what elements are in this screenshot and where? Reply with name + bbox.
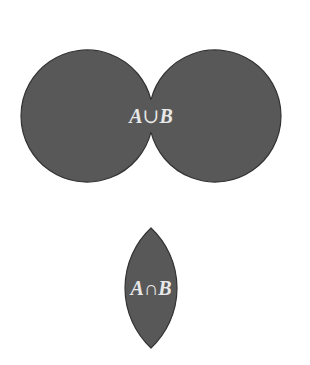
union-label-b: B xyxy=(158,105,172,127)
union-label-a: A xyxy=(127,105,142,127)
intersection-shape: A∩B xyxy=(125,228,177,348)
intersection-label: A∩B xyxy=(128,277,171,299)
union-operator: ∪ xyxy=(143,105,160,127)
intersection-label-b: B xyxy=(157,277,171,299)
venn-diagram-svg: A∪B A∩B xyxy=(0,0,310,365)
union-shape: A∪B xyxy=(21,50,281,182)
venn-diagram: A∪B A∩B xyxy=(0,0,310,365)
intersection-label-a: A xyxy=(128,277,143,299)
union-label: A∪B xyxy=(127,105,172,127)
intersection-operator: ∩ xyxy=(144,277,158,299)
